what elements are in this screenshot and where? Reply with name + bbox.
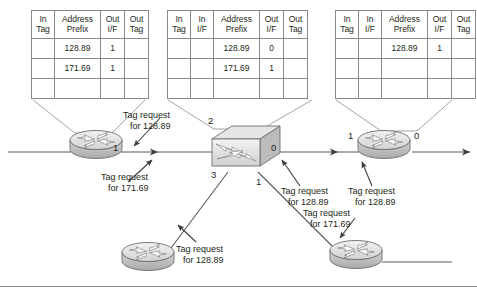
header-address-prefix: Address Prefix	[382, 11, 428, 39]
arrow-switch-128	[282, 160, 300, 186]
port-label-switch-if3: 3	[211, 170, 216, 180]
cell-out-tag	[452, 39, 476, 59]
table-row: 171.69 1	[32, 59, 149, 79]
header-in-if: In I/F	[359, 11, 382, 39]
cell-in-tag	[168, 79, 191, 99]
cell-in-tag	[336, 39, 359, 59]
cell-in-if	[191, 39, 214, 59]
cell-out-tag	[452, 59, 476, 79]
cell-address-prefix	[214, 79, 260, 99]
switch-tag-table: In Tag In I/F Address Prefix Out I/F Out…	[167, 10, 308, 99]
table-row: 128.89 1	[32, 39, 149, 59]
header-out-if: Out I/F	[101, 11, 125, 39]
footer-divider	[0, 286, 477, 287]
cell-in-if	[359, 39, 382, 59]
annotation-switch-128: Tag request for 128.89	[281, 186, 329, 207]
table-row	[168, 79, 308, 99]
table-row	[336, 59, 476, 79]
annotation-left-128: Tag request for 128.89	[123, 110, 171, 131]
cell-out-if: 1	[101, 59, 125, 79]
cell-in-tag	[336, 79, 359, 99]
annotation-left-171: Tag request for 171.69	[101, 172, 149, 193]
cell-address-prefix: 171.69	[55, 59, 101, 79]
cell-address-prefix	[382, 59, 428, 79]
header-out-if: Out I/F	[260, 11, 284, 39]
table-row	[336, 79, 476, 99]
link-switch-to-bottom-left	[168, 172, 228, 252]
header-in-tag: In Tag	[336, 11, 359, 39]
header-address-prefix: Address Prefix	[55, 11, 101, 39]
cell-in-if	[359, 59, 382, 79]
right-router-icon	[358, 131, 410, 159]
cell-out-if: 0	[260, 39, 284, 59]
diagram-canvas: In Tag Address Prefix Out I/F Out Tag 12…	[0, 0, 477, 293]
cell-address-prefix	[382, 79, 428, 99]
left-router-tag-table: In Tag Address Prefix Out I/F Out Tag 12…	[31, 10, 149, 99]
arrow-right-128	[362, 162, 372, 186]
port-label-switch-if1: 1	[256, 177, 261, 187]
annotation-bottom-128: Tag request for 128.89	[176, 244, 224, 265]
table-row	[32, 79, 149, 99]
cell-in-tag	[168, 39, 191, 59]
annotation-right-128: Tag request for 128.89	[348, 186, 396, 207]
right-router-tag-table: In Tag In I/F Address Prefix Out I/F Out…	[335, 10, 476, 99]
table-header-row: In Tag Address Prefix Out I/F Out Tag	[32, 11, 149, 39]
header-in-tag: In Tag	[168, 11, 191, 39]
cell-in-tag	[32, 79, 55, 99]
cell-out-tag	[125, 39, 149, 59]
cell-in-tag	[32, 59, 55, 79]
cell-out-tag	[284, 39, 308, 59]
table-connector-switch	[168, 100, 312, 129]
cell-in-if	[191, 79, 214, 99]
cell-out-tag	[284, 79, 308, 99]
cell-address-prefix: 128.89	[55, 39, 101, 59]
header-address-prefix: Address Prefix	[214, 11, 260, 39]
cell-address-prefix: 128.89	[214, 39, 260, 59]
header-in-if: In I/F	[191, 11, 214, 39]
table-header-row: In Tag In I/F Address Prefix Out I/F Out…	[168, 11, 308, 39]
header-out-if: Out I/F	[428, 11, 452, 39]
cell-in-tag	[336, 59, 359, 79]
table-connector-right	[336, 100, 452, 131]
header-in-tag: In Tag	[32, 11, 55, 39]
annotation-bottom-171: Tag request for 171.69	[303, 208, 351, 229]
table-row: 128.89 1	[336, 39, 476, 59]
cell-address-prefix: 171.69	[214, 59, 260, 79]
cell-in-if	[191, 59, 214, 79]
table-row: 171.69 1	[168, 59, 308, 79]
header-out-tag: Out Tag	[125, 11, 149, 39]
cell-out-if	[428, 79, 452, 99]
bottom-right-router-icon	[330, 241, 382, 269]
bottom-left-router-icon	[122, 243, 174, 271]
table-header-row: In Tag In I/F Address Prefix Out I/F Out…	[336, 11, 476, 39]
port-label-right-router-if1: 1	[348, 131, 353, 141]
table-row: 128.89 0	[168, 39, 308, 59]
cell-out-if: 1	[101, 39, 125, 59]
cell-out-tag	[452, 79, 476, 99]
cell-in-tag	[32, 39, 55, 59]
port-label-left-router-if1: 1	[113, 143, 118, 153]
cell-out-if	[101, 79, 125, 99]
cell-address-prefix: 128.89	[382, 39, 428, 59]
cell-out-if	[260, 79, 284, 99]
port-label-right-router-if0: 0	[414, 131, 419, 141]
cell-out-tag	[125, 79, 149, 99]
header-out-tag: Out Tag	[452, 11, 476, 39]
core-switch-icon	[212, 126, 280, 166]
cell-out-if: 1	[428, 39, 452, 59]
cell-out-if: 1	[260, 59, 284, 79]
cell-address-prefix	[55, 79, 101, 99]
cell-in-tag	[168, 59, 191, 79]
port-label-switch-if2: 2	[208, 116, 213, 126]
cell-in-if	[359, 79, 382, 99]
cell-out-if	[428, 59, 452, 79]
port-label-switch-if0: 0	[271, 143, 276, 153]
cell-out-tag	[284, 59, 308, 79]
header-out-tag: Out Tag	[284, 11, 308, 39]
cell-out-tag	[125, 59, 149, 79]
